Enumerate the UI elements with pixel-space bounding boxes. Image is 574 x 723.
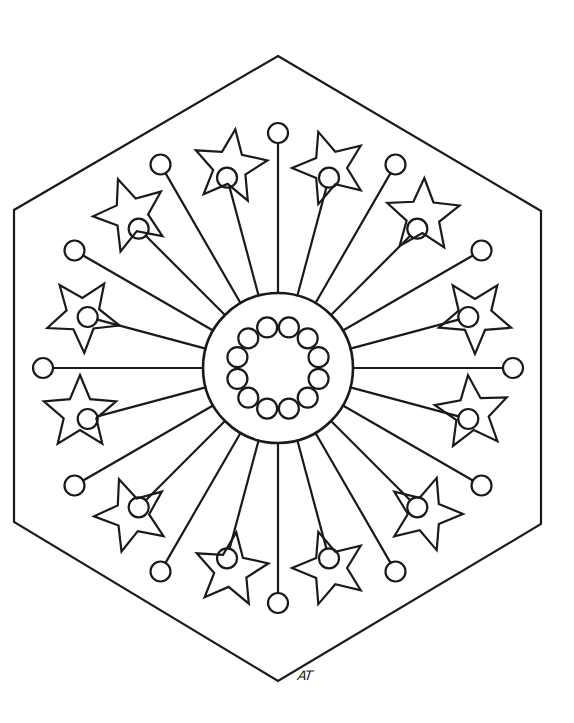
- spoke-bulb-circle: [268, 123, 288, 143]
- spoke-bulb-circle: [78, 409, 98, 429]
- spoke-bulb-circle: [458, 409, 478, 429]
- star-icon: [197, 532, 269, 603]
- artist-signature: AT: [297, 668, 313, 683]
- spoke-bulb-circle: [151, 562, 171, 582]
- spoke: [268, 443, 288, 613]
- spoke-bulb-circle: [386, 154, 406, 174]
- mandala-drawing: [0, 0, 574, 723]
- spoke-bulb-circle: [151, 154, 171, 174]
- bead-circle: [238, 328, 258, 348]
- spoke: [343, 241, 492, 331]
- spoke: [353, 358, 523, 378]
- spoke: [268, 123, 288, 293]
- spoke-bulb-circle: [129, 497, 149, 517]
- spoke: [64, 241, 213, 331]
- star-icon: [47, 284, 119, 354]
- spoke: [33, 358, 203, 378]
- bead-circle: [257, 317, 277, 337]
- star-icon: [94, 479, 164, 551]
- hub-circle: [203, 293, 353, 443]
- bead-circle: [298, 388, 318, 408]
- spoke: [316, 433, 406, 582]
- star-icon: [394, 478, 463, 550]
- spoke-bulb-circle: [407, 497, 427, 517]
- spoke-bulb-circle: [268, 593, 288, 613]
- spoke: [331, 421, 427, 517]
- spoke-bulb-circle: [472, 476, 492, 496]
- bead-circle: [238, 388, 258, 408]
- bead-circle: [279, 399, 299, 419]
- spoke-bulb-circle: [458, 307, 478, 327]
- spoke-bulb-circle: [64, 241, 84, 261]
- bead-circle: [227, 369, 247, 389]
- spoke: [64, 406, 213, 496]
- star-icon: [439, 285, 511, 354]
- spoke: [151, 433, 241, 582]
- bead-circle: [227, 347, 247, 367]
- spoke-bulb-circle: [78, 307, 98, 327]
- radial-spokes: [33, 123, 523, 613]
- spoke: [331, 219, 427, 315]
- spoke: [316, 154, 406, 303]
- spoke: [151, 154, 241, 303]
- spoke: [343, 406, 492, 496]
- spoke-bulb-circle: [472, 241, 492, 261]
- spoke-bulb-circle: [386, 562, 406, 582]
- spoke: [217, 440, 259, 568]
- star-icon: [44, 375, 116, 444]
- spoke-bulb-circle: [33, 358, 53, 378]
- bead-circle: [298, 328, 318, 348]
- spoke-bulb-circle: [503, 358, 523, 378]
- bead-circle: [279, 317, 299, 337]
- spoke-bulb-circle: [217, 548, 237, 568]
- bead-circle: [257, 399, 277, 419]
- star-icon: [435, 375, 507, 446]
- spoke: [129, 421, 225, 517]
- spoke-bulb-circle: [64, 476, 84, 496]
- bead-circle: [309, 347, 329, 367]
- inner-bead-ring: [227, 317, 328, 418]
- bead-circle: [309, 369, 329, 389]
- spoke: [350, 307, 478, 349]
- star-icon: [196, 129, 268, 200]
- spoke-bulb-circle: [129, 219, 149, 239]
- spoke: [350, 387, 478, 429]
